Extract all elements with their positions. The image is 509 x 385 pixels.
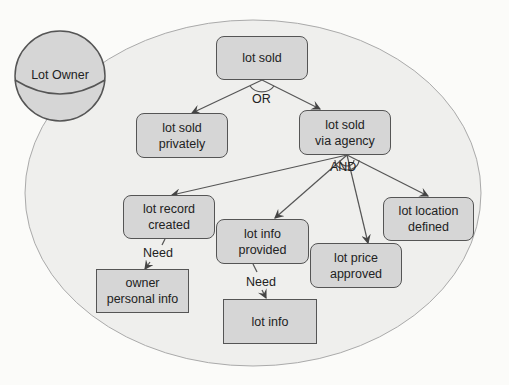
resource-lot-info[interactable]: lot info xyxy=(223,299,317,344)
goal-lot-sold-via-agency[interactable]: lot sold via agency xyxy=(299,110,391,155)
need-label-1: Need xyxy=(143,246,173,260)
goal-lot-location-defined[interactable]: lot location defined xyxy=(383,197,474,241)
goal-lot-record-created[interactable]: lot record created xyxy=(123,195,215,239)
need-label-2: Need xyxy=(246,275,276,289)
goal-lot-info-provided[interactable]: lot info provided xyxy=(216,219,309,264)
goal-lot-price-approved[interactable]: lot price approved xyxy=(310,243,402,288)
actor-label: Lot Owner xyxy=(15,68,105,82)
or-label: OR xyxy=(252,92,271,106)
goal-lot-sold[interactable]: lot sold xyxy=(216,36,308,80)
resource-owner-personal-info[interactable]: owner personal info xyxy=(96,269,189,313)
and-label: AND xyxy=(330,160,356,174)
goal-lot-sold-privately[interactable]: lot sold privately xyxy=(136,113,228,158)
